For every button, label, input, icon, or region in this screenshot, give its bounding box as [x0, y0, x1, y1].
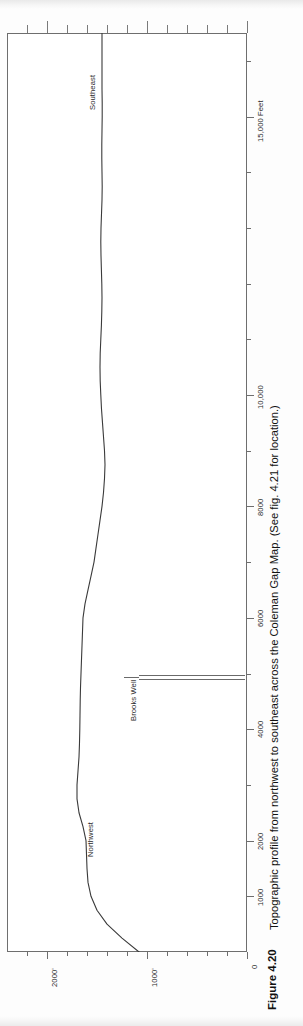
well-casing-line-lower	[139, 679, 245, 680]
elevation-tick-minor	[67, 952, 68, 956]
figure-number: Figure 4.20	[266, 949, 278, 1010]
elevation-tick-minor	[187, 952, 188, 956]
topographic-profile-line	[77, 33, 139, 952]
annotation-southeast: Southeast	[88, 75, 97, 110]
annotation-northwest: Northwest	[86, 822, 95, 857]
elevation-tick-major	[147, 952, 148, 959]
elevation-tick-top-minor	[127, 25, 128, 33]
well-casing-line-upper	[139, 675, 245, 676]
elevation-tick-label: 2000'	[50, 968, 59, 987]
elevation-tick-minor	[27, 952, 28, 956]
elevation-tick-top-minor	[227, 25, 228, 33]
elevation-tick-top-minor	[107, 25, 108, 33]
elevation-tick-major	[47, 952, 48, 959]
elevation-tick-top-minor	[67, 25, 68, 33]
elevation-tick-minor	[167, 952, 168, 956]
elevation-tick-top-minor	[207, 25, 208, 33]
figure-caption-text: Topographic profile from northwest to so…	[268, 405, 280, 930]
annotation-brooks-well: Brooks Well	[129, 680, 138, 721]
elevation-tick-top-minor	[167, 25, 168, 33]
well-leader-tick	[124, 677, 139, 678]
distance-tick-minor	[247, 674, 251, 675]
elevation-tick-top-minor	[27, 25, 28, 33]
elevation-tick-top-minor	[87, 25, 88, 33]
elevation-tick-minor	[207, 952, 208, 956]
distance-tick-minor	[247, 785, 251, 786]
elevation-tick-top-major	[247, 21, 248, 33]
distance-tick-minor	[247, 228, 251, 229]
elevation-tick-top-minor	[187, 25, 188, 33]
topographic-profile-figure	[7, 33, 247, 952]
plot-area	[7, 33, 247, 952]
elevation-tick-minor	[127, 952, 128, 956]
distance-tick-minor	[247, 61, 251, 62]
figure-caption-block: Figure 4.20 Topographic profile from nor…	[252, 0, 303, 1026]
elevation-tick-top-major	[147, 21, 148, 33]
elevation-tick-top-major	[47, 21, 48, 33]
distance-tick-minor	[247, 562, 251, 563]
distance-tick-minor	[247, 339, 251, 340]
elevation-tick-major	[247, 952, 248, 959]
elevation-tick-label: 1000'	[150, 968, 159, 987]
distance-tick-minor	[247, 284, 251, 285]
elevation-tick-minor	[227, 952, 228, 956]
elevation-tick-minor	[87, 952, 88, 956]
elevation-tick-minor	[107, 952, 108, 956]
profile-curve-svg	[7, 33, 247, 952]
distance-tick-minor	[247, 451, 251, 452]
distance-tick-minor	[247, 172, 251, 173]
